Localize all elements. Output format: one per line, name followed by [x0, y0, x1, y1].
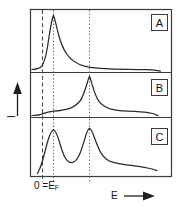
y-axis-arrow — [13, 82, 22, 116]
x-axis-label: E — [111, 191, 118, 201]
panel-label-b: B — [151, 79, 168, 96]
x-axis-arrow — [124, 192, 155, 201]
fermi-label-main: 0 =E — [34, 180, 55, 191]
x-axis-origin-label: 0 =EF — [34, 181, 59, 191]
panel-label-c: C — [151, 128, 168, 145]
fermi-label-subscript: F — [55, 184, 59, 191]
spectroscopy-figure: A B C 0 =EF E I — [0, 0, 181, 212]
panel-label-a: A — [151, 14, 168, 31]
figure-canvas — [0, 0, 181, 212]
y-axis-label: I — [7, 115, 17, 118]
